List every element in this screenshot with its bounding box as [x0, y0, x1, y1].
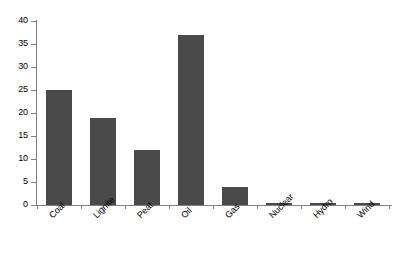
y-axis-tick-label: 30: [0, 62, 28, 71]
bar: [178, 35, 204, 205]
y-axis-tick-label: 40: [0, 16, 28, 25]
x-axis-tick: [81, 205, 82, 209]
bar: [46, 90, 72, 205]
x-axis-line: [36, 205, 392, 206]
bar-chart: 0510152025303540 CoalLignitePeatOilGasNu…: [0, 0, 410, 255]
x-axis-tick: [345, 205, 346, 209]
bar: [90, 118, 116, 205]
x-axis-tick: [257, 205, 258, 209]
x-axis-tick: [125, 205, 126, 209]
plot-area: [37, 21, 389, 205]
x-axis-tick: [213, 205, 214, 209]
y-axis-tick-label: 20: [0, 108, 28, 117]
x-axis-tick: [301, 205, 302, 209]
y-axis-tick-label: 5: [0, 177, 28, 186]
x-axis-tick: [37, 205, 38, 209]
y-axis-tick-label: 35: [0, 39, 28, 48]
x-axis-tick: [389, 205, 390, 209]
y-axis-tick-label: 15: [0, 131, 28, 140]
x-axis-tick: [169, 205, 170, 209]
x-axis-tick-label: Oil: [179, 205, 194, 220]
bar: [134, 150, 160, 205]
y-axis-tick-label: 25: [0, 85, 28, 94]
y-axis-tick-label: 0: [0, 200, 28, 209]
y-axis-tick-label: 10: [0, 154, 28, 163]
